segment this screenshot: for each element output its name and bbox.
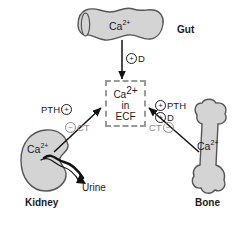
bone-regulator-pth: + PTH xyxy=(155,100,186,111)
ecf-line-3: ECF xyxy=(116,111,136,122)
bone-label: Bone xyxy=(195,197,220,208)
bone-regulator-group: + PTH + D xyxy=(155,100,186,123)
gut-ion-label: Ca2+ xyxy=(109,19,130,32)
ecf-line-2: in xyxy=(122,100,130,111)
ecf-pool-box: Ca2+ in ECF xyxy=(105,80,146,127)
kidney-regulator-ct: − CT xyxy=(65,122,90,133)
kidney-label: Kidney xyxy=(25,197,58,208)
kidney-shape xyxy=(21,130,86,191)
kidney-ct-text: CT xyxy=(77,122,90,133)
bone-ion-label: Ca2+ xyxy=(197,139,218,152)
bone-regulator-ct: CT − xyxy=(149,122,174,133)
plus-sign-icon: + xyxy=(61,104,72,115)
kidney-regulator-pth: PTH + xyxy=(41,104,72,115)
calcium-homeostasis-diagram: Ca2+ in ECF Ca2+ Ca2+ Ca2+ Gut Kidney Bo… xyxy=(0,0,244,225)
gut-regulator-vitamin-d: + D xyxy=(126,53,145,64)
bone-pth-text: PTH xyxy=(167,100,186,111)
minus-sign-icon: − xyxy=(163,122,174,133)
urine-label: Urine xyxy=(82,182,106,193)
bone-ct-text: CT xyxy=(149,122,162,133)
kidney-ion-label: Ca2+ xyxy=(27,142,48,155)
plus-sign-icon: + xyxy=(155,100,166,111)
minus-sign-icon: − xyxy=(65,122,76,133)
plus-sign-icon: + xyxy=(126,53,137,64)
kidney-pth-text: PTH xyxy=(41,104,60,115)
ecf-line-1: Ca2+ xyxy=(113,85,137,101)
gut-regulator-text: D xyxy=(138,53,145,64)
gut-label: Gut xyxy=(177,24,194,35)
